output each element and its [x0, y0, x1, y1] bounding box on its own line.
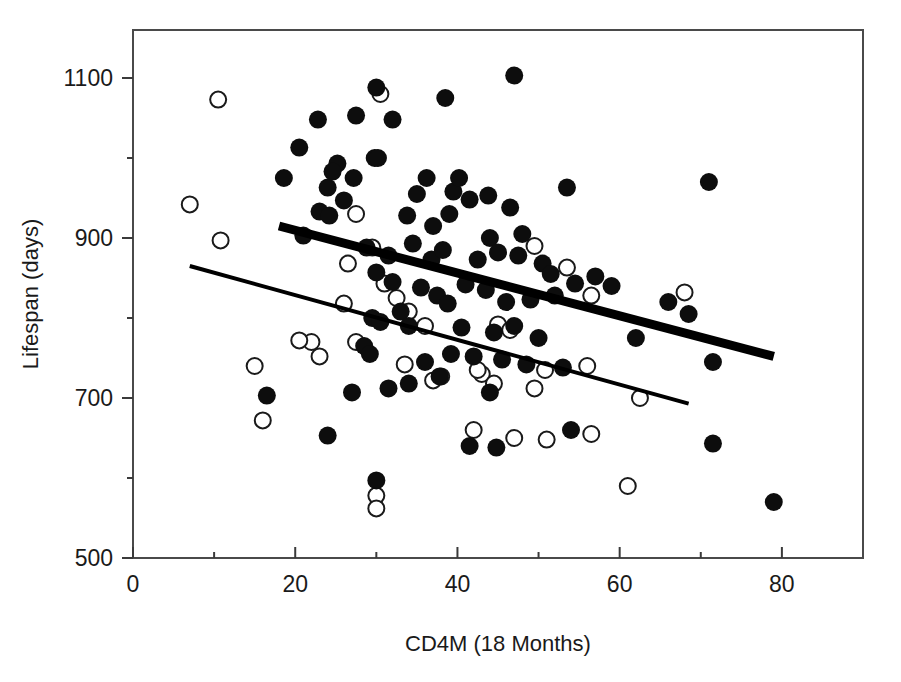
- data-point-filled: [479, 187, 497, 205]
- x-axis-tick-labels: 020406080: [127, 571, 795, 597]
- data-point-open: [247, 358, 263, 374]
- data-point-filled: [416, 353, 434, 371]
- data-point-filled: [367, 79, 385, 97]
- data-point-open: [348, 206, 364, 222]
- data-point-filled: [309, 111, 327, 129]
- data-point-filled: [509, 247, 527, 265]
- data-point-filled: [408, 185, 426, 203]
- data-point-filled: [461, 191, 479, 209]
- data-point-filled: [404, 235, 422, 253]
- y-tick-label: 700: [75, 385, 113, 411]
- data-point-filled: [627, 329, 645, 347]
- data-point-open: [559, 260, 575, 276]
- data-point-filled: [704, 435, 722, 453]
- x-tick-label: 20: [282, 571, 308, 597]
- data-point-open: [182, 196, 198, 212]
- data-point-filled: [513, 225, 531, 243]
- data-point-filled: [319, 427, 337, 445]
- data-point-filled: [418, 169, 436, 187]
- data-point-filled: [290, 139, 308, 157]
- data-point-filled: [485, 323, 503, 341]
- data-point-filled: [469, 251, 487, 269]
- data-point-filled: [324, 163, 342, 181]
- x-tick-label: 60: [607, 571, 633, 597]
- y-axis-tick-labels: 5007009001100: [64, 65, 113, 571]
- x-axis-title: CD4M (18 Months): [405, 631, 591, 656]
- data-point-filled: [367, 471, 385, 489]
- data-point-filled: [586, 267, 604, 285]
- data-point-filled: [497, 293, 515, 311]
- data-point-filled: [489, 243, 507, 261]
- data-point-open: [291, 332, 307, 348]
- data-point-filled: [700, 173, 718, 191]
- scatter-plot-figure: 5007009001100 020406080 CD4M (18 Months)…: [0, 0, 901, 682]
- data-point-filled: [603, 277, 621, 295]
- data-point-open: [340, 256, 356, 272]
- data-point-filled: [558, 179, 576, 197]
- data-point-open: [579, 358, 595, 374]
- data-point-open: [677, 284, 693, 300]
- data-point-filled: [530, 329, 548, 347]
- data-point-open: [583, 288, 599, 304]
- data-point-filled: [680, 305, 698, 323]
- data-point-filled: [501, 199, 519, 217]
- data-point-filled: [704, 353, 722, 371]
- data-point-filled: [765, 493, 783, 511]
- data-point-filled: [436, 89, 454, 107]
- y-tick-label: 900: [75, 225, 113, 251]
- data-point-filled: [345, 169, 363, 187]
- data-point-open: [312, 348, 328, 364]
- data-point-filled: [384, 273, 402, 291]
- data-point-filled: [659, 293, 677, 311]
- data-point-filled: [369, 149, 387, 167]
- data-point-open: [213, 232, 229, 248]
- data-point-filled: [434, 241, 452, 259]
- data-point-filled: [275, 169, 293, 187]
- data-point-filled: [442, 345, 460, 363]
- data-point-filled: [562, 421, 580, 439]
- data-point-filled: [343, 383, 361, 401]
- data-point-filled: [424, 217, 442, 235]
- x-tick-label: 40: [445, 571, 471, 597]
- data-point-filled: [487, 439, 505, 457]
- data-point-filled: [384, 111, 402, 129]
- data-point-open: [506, 430, 522, 446]
- data-point-filled: [505, 67, 523, 85]
- data-point-open: [397, 356, 413, 372]
- data-point-filled: [361, 345, 379, 363]
- data-point-filled: [431, 367, 449, 385]
- data-point-filled: [398, 207, 416, 225]
- y-tick-label: 1100: [64, 65, 113, 91]
- data-point-filled: [566, 275, 584, 293]
- data-point-filled: [258, 387, 276, 405]
- data-point-filled: [320, 207, 338, 225]
- data-point-open: [466, 422, 482, 438]
- data-point-filled: [481, 383, 499, 401]
- data-point-filled: [453, 319, 471, 337]
- data-point-open: [583, 426, 599, 442]
- data-point-open: [368, 500, 384, 516]
- data-point-filled: [367, 263, 385, 281]
- plot-frame: [133, 30, 863, 558]
- data-point-open: [620, 478, 636, 494]
- data-point-filled: [450, 169, 468, 187]
- data-point-filled: [347, 107, 365, 125]
- plot-canvas: 5007009001100 020406080 CD4M (18 Months)…: [0, 0, 901, 682]
- data-point-filled: [542, 265, 560, 283]
- data-point-open: [255, 412, 271, 428]
- data-point-open: [527, 380, 543, 396]
- x-tick-label: 0: [127, 571, 140, 597]
- data-point-filled: [465, 347, 483, 365]
- data-point-filled: [335, 191, 353, 209]
- data-point-open: [539, 432, 555, 448]
- data-point-open: [527, 238, 543, 254]
- x-tick-label: 80: [769, 571, 795, 597]
- y-axis-title: Lifespan (days): [18, 219, 43, 369]
- data-point-filled: [440, 205, 458, 223]
- data-point-open: [210, 92, 226, 108]
- data-point-filled: [505, 317, 523, 335]
- data-point-filled: [412, 279, 430, 297]
- data-point-filled: [319, 179, 337, 197]
- data-point-filled: [461, 437, 479, 455]
- data-point-filled: [400, 375, 418, 393]
